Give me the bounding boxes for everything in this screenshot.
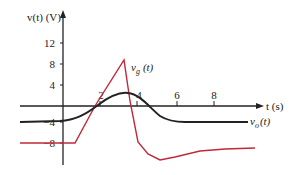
chart: 12 8 4 −4 −8 2 4 6 8 v(t) (V) t (s) vg(t… bbox=[0, 0, 291, 175]
vg-label: vg(t) bbox=[131, 61, 154, 76]
vo-label: vo(t) bbox=[250, 115, 271, 130]
y-axis-label: v(t) (V) bbox=[27, 11, 61, 24]
x-tick-8: 8 bbox=[211, 89, 217, 101]
y-tick-4: 4 bbox=[50, 79, 56, 91]
x-axis-arrow-icon bbox=[256, 103, 264, 109]
y-tick-8: 8 bbox=[50, 58, 56, 70]
x-tick-6: 6 bbox=[174, 89, 180, 101]
y-tick-12: 12 bbox=[44, 37, 55, 49]
x-axis-label: t (s) bbox=[266, 100, 284, 113]
